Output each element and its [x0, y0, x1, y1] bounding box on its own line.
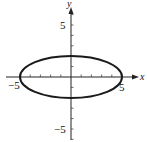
ellipse-plot: y x 5 −5 −5 5	[0, 0, 147, 142]
x-tick-label-5: 5	[119, 81, 125, 93]
y-tick-label-neg5: −5	[54, 123, 66, 135]
x-tick-label-neg5: −5	[8, 79, 20, 91]
x-axis-label: x	[139, 71, 145, 82]
x-axis-arrow-icon	[132, 75, 139, 80]
y-axis-label: y	[66, 0, 72, 9]
y-tick-label-5: 5	[60, 19, 66, 31]
